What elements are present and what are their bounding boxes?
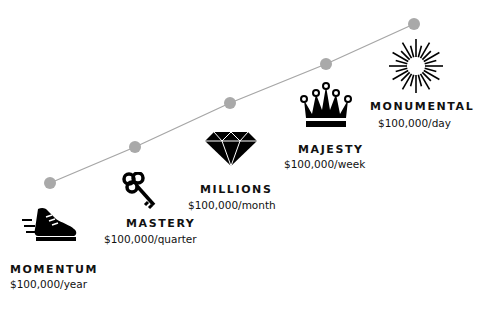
timeline-dot-monumental <box>408 18 420 30</box>
starburst-ray <box>424 53 440 62</box>
stage-title-millions: MILLIONS <box>200 183 272 196</box>
starburst-ray <box>396 61 408 64</box>
starburst-ray <box>421 74 430 90</box>
sneaker-icon <box>22 205 80 245</box>
key-icon <box>122 172 158 212</box>
timeline-dot-majesty <box>320 58 332 70</box>
starburst-ray <box>411 46 414 58</box>
timeline-dot-mastery <box>129 141 141 153</box>
starburst-ray <box>425 68 437 71</box>
stage-rate-mastery: $100,000/quarter <box>104 233 197 245</box>
timeline-dot-millions <box>224 97 236 109</box>
starburst-ray <box>424 71 440 80</box>
diamond-icon <box>204 131 258 167</box>
starburst-ray <box>411 75 414 87</box>
starburst-ray <box>393 71 409 80</box>
stage-title-mastery: MASTERY <box>126 217 195 230</box>
starburst-ray <box>425 61 437 64</box>
starburst-ray <box>418 75 421 87</box>
stage-title-majesty: MAJESTY <box>298 143 364 156</box>
starburst-ray <box>403 74 412 90</box>
stage-rate-monumental: $100,000/day <box>378 117 451 129</box>
timeline-dot-momentum <box>44 177 56 189</box>
stage-rate-majesty: $100,000/week <box>284 158 365 170</box>
starburst-ray <box>421 43 430 59</box>
stage-title-monumental: MONUMENTAL <box>370 100 474 113</box>
crown-icon <box>300 82 352 128</box>
starburst-icon <box>388 38 444 94</box>
starburst-ray <box>418 46 421 58</box>
stage-rate-millions: $100,000/month <box>188 199 276 211</box>
stage-title-momentum: MOMENTUM <box>10 263 98 276</box>
stage-rate-momentum: $100,000/year <box>10 278 87 290</box>
starburst-ray <box>393 53 409 62</box>
starburst-ray <box>403 43 412 59</box>
starburst-ray <box>396 68 408 71</box>
